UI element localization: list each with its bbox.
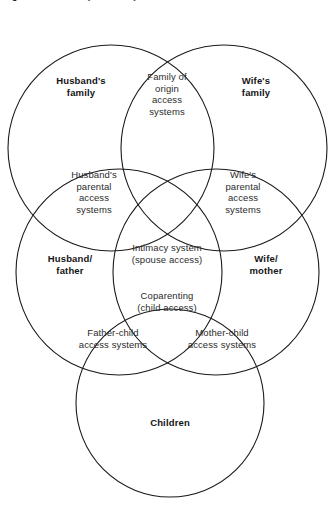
label-wife-mother: Wife/ mother	[249, 253, 282, 276]
label-husbands-family: Husband's family	[56, 75, 106, 98]
label-father-child-access-systems: Father-child access systems	[79, 327, 147, 350]
label-children: Children	[150, 417, 190, 429]
label-family-of-origin-access-systems: Family of origin access systems	[147, 71, 186, 117]
label-coparenting: Coparenting (child access)	[137, 290, 196, 313]
label-intimacy-system: Intimacy system (spouse access)	[132, 242, 203, 265]
venn-diagram-figure: Figure 1. The multi-system family access…	[0, 0, 335, 505]
label-husbands-parental-access-systems: Husband's parental access systems	[71, 169, 117, 215]
label-wifes-family: Wife's family	[242, 75, 270, 98]
label-mother-child-access-systems: Mother-child access systems	[188, 327, 256, 350]
label-wifes-parental-access-systems: Wife's parental access systems	[225, 169, 261, 215]
label-husband-father: Husband/ father	[48, 253, 92, 276]
